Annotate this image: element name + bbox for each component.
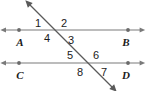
point-label-a: A — [13, 37, 27, 48]
point-b-dot — [126, 28, 130, 32]
geometry-figure: 1 2 4 3 5 6 8 7 A B C D — [0, 0, 146, 91]
angle-label-6: 6 — [90, 50, 102, 61]
point-c-dot — [17, 61, 21, 65]
point-label-d: D — [119, 70, 133, 81]
angle-label-7: 7 — [98, 67, 110, 78]
angle-label-8: 8 — [74, 67, 86, 78]
angle-label-3: 3 — [65, 35, 77, 46]
angle-label-1: 1 — [32, 18, 44, 29]
point-a-dot — [17, 28, 21, 32]
point-label-b: B — [119, 37, 133, 48]
angle-label-5: 5 — [64, 50, 76, 61]
angle-label-4: 4 — [41, 33, 53, 44]
point-label-c: C — [13, 70, 27, 81]
point-d-dot — [126, 61, 130, 65]
angle-label-2: 2 — [58, 18, 70, 29]
